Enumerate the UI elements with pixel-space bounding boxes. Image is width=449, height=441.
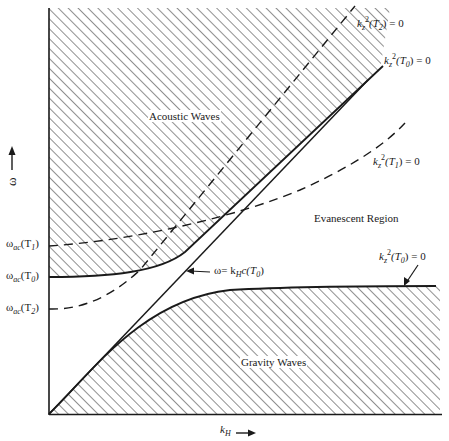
kz-t0-right-label: kz2(T0) = 0 <box>379 251 426 262</box>
tick-omega-ac-t1: ωac(T1) <box>6 238 39 249</box>
gravity-waves-region <box>49 286 440 414</box>
tick-omega-ac-t0: ωac(T0) <box>6 270 39 281</box>
acoustic-waves-label: Acoustic Waves <box>148 111 221 122</box>
omega-axis-label: ω <box>5 177 18 186</box>
gravity-waves-label: Gravity Waves <box>240 357 307 368</box>
kz-t1-label: kz2(T1) = 0 <box>373 156 420 167</box>
sound-line-label: ω= kHc(T0) <box>214 265 264 276</box>
kz-t2-label: kz2(T2) = 0 <box>357 18 404 29</box>
kz-t0-top-label: kz2(T0) = 0 <box>384 55 431 66</box>
kh-axis-label: kH <box>220 424 231 435</box>
acoustic-waves-region <box>49 8 390 277</box>
evanescent-region-label: Evanescent Region <box>314 213 399 224</box>
tick-omega-ac-t2: ωac(T2) <box>6 302 39 313</box>
